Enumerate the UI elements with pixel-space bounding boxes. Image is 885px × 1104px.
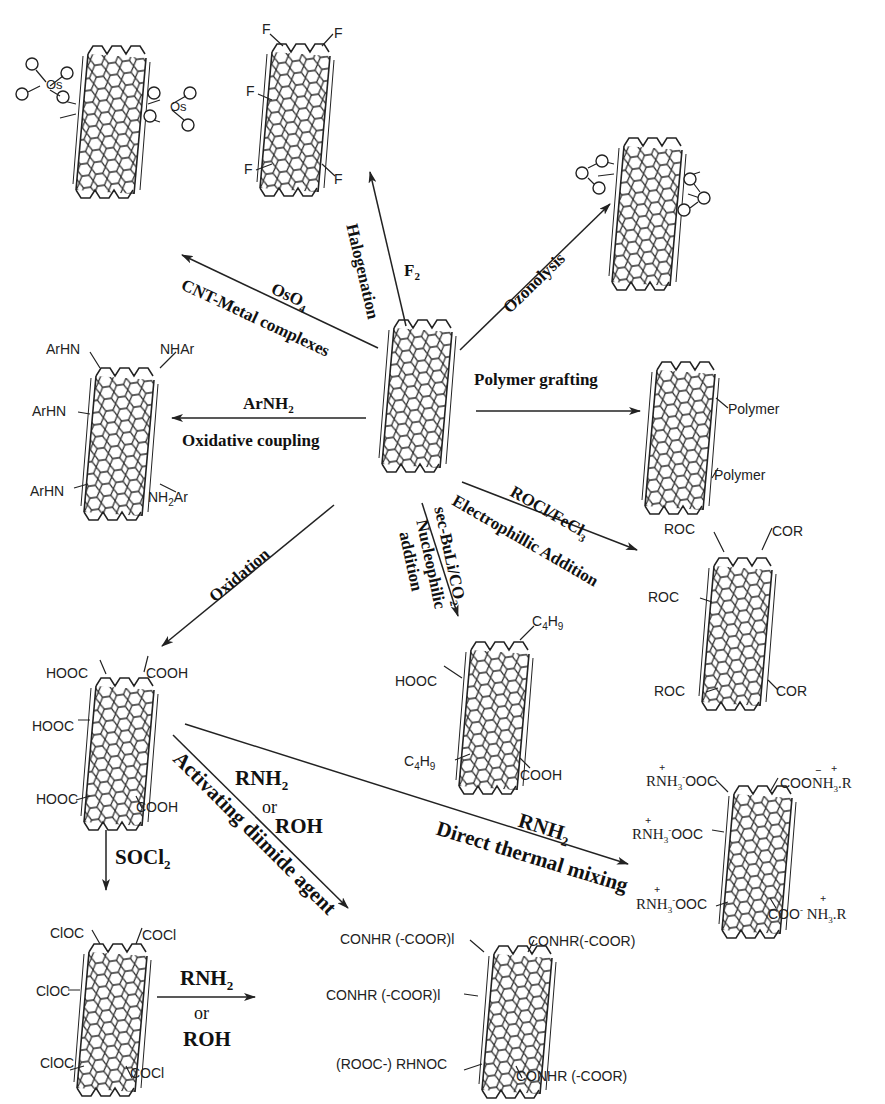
charge-plus-bl: + [654,884,660,895]
h-text: H [548,613,558,629]
sub-hooc-ml: HOOC [32,719,74,733]
sub-cloc-ml: ClOC [36,984,70,998]
sub-cloc-tl: ClOC [50,926,84,940]
sub-9: 9 [558,621,564,632]
label-rnh2-diimide: RNH2 [235,768,288,792]
rnh-text: RNH [646,773,678,789]
sub-3: 3 [664,835,669,845]
rnh2-subscript: 2 [282,778,289,793]
ooc-text: OOC [675,896,707,912]
c-text: C [404,753,414,769]
label-rnh2-chloride: RNH2 [180,968,233,992]
label-roh-chloride: ROH [183,1029,231,1050]
coo-text: COO [768,906,800,922]
sub-rhnoc-bl: (ROOC-) RHNOC [336,1057,447,1071]
sub-c4h9-tr: C4H9 [532,614,563,632]
nh-text: NH [812,775,834,791]
fluorinated-cnt [257,44,334,196]
c-text: C [532,613,542,629]
sub-cocl-tr: COCl [142,928,176,942]
osmate-ester-cnt [73,46,150,198]
sub-polymer-top: Polymer [728,402,779,416]
sub-cooh-br: COOH [136,800,178,814]
sub-cooh-br: COOH [520,768,562,782]
arnh2-subscript: 2 [288,403,294,415]
charge-plus-br: + [820,893,826,904]
label-polymer-grafting: Polymer grafting [474,371,598,388]
sub-cloc-bl: ClOC [40,1056,74,1070]
socl2-text: SOCl [115,845,164,869]
label-socl2: SOCl2 [115,847,171,871]
charge-plus-tl: + [659,762,665,773]
sub-cor-tr: COR [772,524,803,538]
ooc-text: OOC [671,826,703,842]
sub-nhar-tr: NHAr [160,342,194,356]
sub-arhn-ml: ArHN [32,404,66,418]
sub-ammonium-ml: RNH3-OOC [632,826,703,845]
ooc-text: OOC [685,773,717,789]
charge-plus-ml: + [645,815,651,826]
sub-ammonium-tr: COONH3.R [780,776,852,794]
label-roh-diimide: ROH [275,816,323,837]
charge-minus: - [800,905,803,915]
rnh-text: RNH [636,896,668,912]
arnh2-text: ArNH [243,394,288,413]
sub-os-left: Os [46,78,63,91]
sub-hooc-bl: HOOC [36,792,78,806]
ar-text: Ar [174,489,188,505]
sub-f-ml: F [246,84,255,98]
sub-nh2ar-br: NH2Ar [148,490,188,508]
r-text: .R [838,775,852,791]
acyl-cnt [699,558,776,710]
sub-f-tr: F [334,26,343,40]
sub-roc-bl: ROC [654,684,685,698]
sub-ammonium-tl: RNH3-OOC [646,773,717,792]
sub-ammonium-bl: RNH3-OOC [636,896,707,915]
sub-f-bl: F [244,162,253,176]
pristine-cnt [379,320,456,472]
sub-ammonium-br: COO- NH3.R [768,906,847,925]
sub-cocl-br: COCl [130,1066,164,1080]
sub-arhn-tl: ArHN [46,342,80,356]
nh-text: NH [148,489,168,505]
sub-cor-br: COR [776,684,807,698]
label-f2: F2 [404,262,420,282]
sub-conhr-br: CONHR (-COOR) [516,1069,627,1083]
sub-roc-ml: ROC [648,590,679,604]
arylamine-cnt [81,368,158,520]
rnh2-subscript: 2 [227,978,234,993]
sub-conhr-tl: CONHR (-COOR)l [340,932,454,946]
socl2-subscript: 2 [164,857,171,872]
sub-arhn-bl: ArHN [30,484,64,498]
ozonide-cnt [609,138,686,290]
sub-conhr-ml: CONHR (-COOR)l [326,988,440,1002]
sub-os-right: Os [170,100,187,113]
sub-conhr-tr: CONHR(-COOR) [528,934,635,948]
nh-text: NH [807,906,829,922]
sub-cooh-tr: COOH [146,666,188,680]
sub-hooc-tl: HOOC [46,666,88,680]
sub-f-tl: F [262,22,271,36]
label-or-chloride: or [194,1004,209,1022]
f2-subscript: 2 [414,270,420,282]
rnh2-text: RNH [180,966,227,990]
sub-c4h9-bl: C4H9 [404,754,435,772]
label-oxidative-coupling: Oxidative coupling [182,432,319,449]
sub-roc-tl: ROC [664,522,695,536]
rnh2-text: RNH [235,766,282,790]
charge-minus-tr: − [815,765,821,776]
polymer-cnt [642,362,719,514]
sub-f-br: F [334,172,343,186]
sub-3: 3 [668,905,673,915]
sub-hooc-ml: HOOC [395,674,437,688]
h-text: H [420,753,430,769]
functionalization-diagram: Halogenation F2 OsO4 CNT-Metal complexes… [0,0,885,1104]
sub-9: 9 [430,761,436,772]
coo-text: COO [780,775,812,791]
f2-text: F [404,261,414,280]
rnh-text: RNH [632,826,664,842]
label-arnh2: ArNH2 [243,395,294,415]
sub-3: 3 [678,782,683,792]
r-text: .R [833,906,847,922]
sub-polymer-bottom: Polymer [714,468,765,482]
